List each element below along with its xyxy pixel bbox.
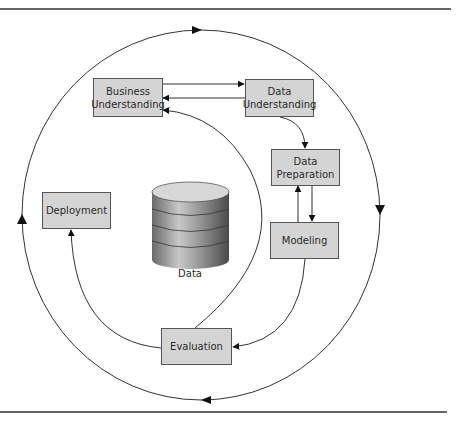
cycle-arrow-right-icon <box>375 205 385 215</box>
node-label: Evaluation <box>170 340 223 353</box>
node-label: Data Preparation <box>272 155 339 181</box>
data-label: Data <box>170 268 210 279</box>
cycle-arrow-top-icon <box>192 26 202 34</box>
cycle-arrow-left-icon <box>17 214 27 224</box>
node-evaluation: Evaluation <box>161 328 232 365</box>
node-label: Data Understanding <box>243 85 317 111</box>
node-data-preparation: Data Preparation <box>271 149 340 186</box>
node-deployment: Deployment <box>42 192 111 229</box>
node-business-understanding: Business Understanding <box>93 78 163 117</box>
node-modeling: Modeling <box>270 222 339 259</box>
node-label: Modeling <box>282 234 328 247</box>
node-data-understanding: Data Understanding <box>245 79 314 117</box>
edge-du-to-prep <box>280 117 305 148</box>
node-label: Business Understanding <box>91 85 165 111</box>
cycle-arrow-bottom-icon <box>201 396 211 404</box>
edge-modeling-to-eval <box>233 259 305 347</box>
node-label: Deployment <box>46 204 107 217</box>
edge-eval-to-deployment <box>71 230 161 348</box>
database-cylinder-icon <box>152 182 229 269</box>
